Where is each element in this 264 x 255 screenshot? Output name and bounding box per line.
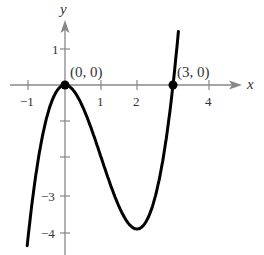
chart: −1 1 2 4 1 −3 −4 x y (0, 0) (3, 0) bbox=[0, 0, 264, 255]
y-tick-label: −3 bbox=[41, 189, 55, 204]
x-tick-label: 4 bbox=[205, 94, 212, 109]
point-root-3-label: (3, 0) bbox=[177, 64, 210, 81]
x-tick-label: −1 bbox=[20, 94, 34, 109]
point-origin bbox=[61, 81, 70, 90]
function-curve bbox=[27, 31, 178, 245]
point-origin-label: (0, 0) bbox=[70, 64, 103, 81]
x-tick-label: 2 bbox=[133, 94, 140, 109]
x-axis-label: x bbox=[246, 76, 254, 92]
x-tick-label: 1 bbox=[97, 94, 104, 109]
y-tick-label: −4 bbox=[41, 226, 55, 241]
point-root-3 bbox=[169, 81, 178, 90]
y-tick-label: 1 bbox=[52, 42, 59, 57]
y-axis-label: y bbox=[58, 1, 67, 17]
